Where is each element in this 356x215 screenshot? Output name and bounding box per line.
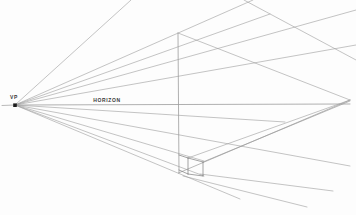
construction-line <box>15 0 131 105</box>
construction-line <box>183 176 307 207</box>
construction-lines-svg <box>0 0 356 215</box>
construction-line <box>188 100 350 158</box>
box-edge-line <box>179 155 188 158</box>
vp-label: VP <box>10 95 18 100</box>
construction-line <box>15 14 270 105</box>
construction-line <box>2 105 15 106</box>
construction-line <box>15 105 204 161</box>
construction-line <box>15 0 253 105</box>
construction-line <box>15 105 350 166</box>
vanishing-point-marker <box>13 103 17 107</box>
construction-line <box>200 174 333 191</box>
construction-line <box>15 45 356 105</box>
construction-line <box>15 105 285 122</box>
construction-line <box>178 33 179 173</box>
construction-line <box>15 104 350 105</box>
construction-line <box>15 10 356 105</box>
construction-line <box>15 105 204 176</box>
horizon-label: HORIZON <box>93 98 120 103</box>
perspective-drawing: VP HORIZON <box>0 0 356 215</box>
construction-line <box>244 0 356 60</box>
construction-line <box>15 105 240 199</box>
